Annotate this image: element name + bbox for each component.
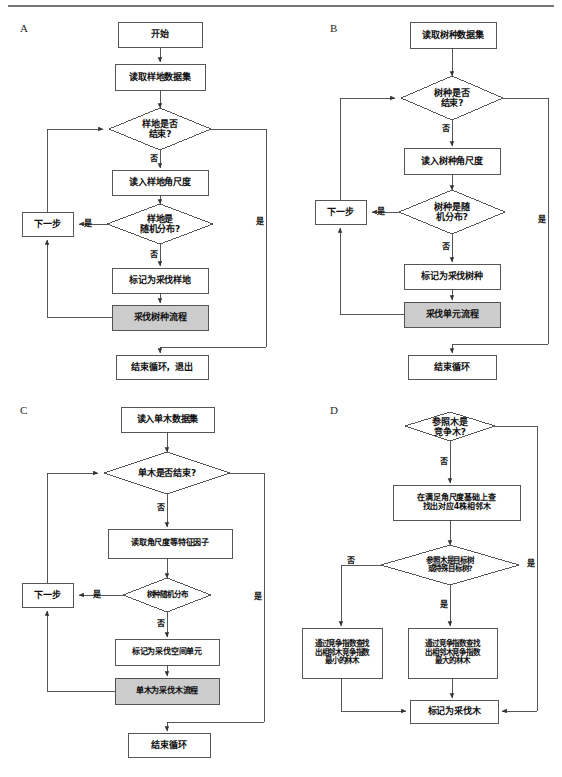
edge-label-a-no-2: 否 <box>150 248 158 259</box>
flowchart-canvas <box>0 0 562 777</box>
panel-letter-a: A <box>20 22 28 34</box>
edge-label-d-no-1: 否 <box>440 455 448 466</box>
panel-letter-b: B <box>330 22 337 34</box>
edge-label-c-no-1: 否 <box>157 501 165 512</box>
edge-label-c-no-2: 否 <box>157 617 165 628</box>
panel-letter-c: C <box>20 404 27 416</box>
edge-label-d-no-2: 否 <box>347 554 355 565</box>
edge-label-b-no-1: 否 <box>442 122 450 133</box>
figure-page: A B C D 开始 读取样地数据集 样地是否结束? 读入样地角尺度 样地是随机… <box>0 0 562 777</box>
panel-letter-d: D <box>330 404 338 416</box>
edge-label-a-yes-1: 是 <box>84 217 92 228</box>
edge-label-d-yes-2: 是 <box>440 598 448 609</box>
edge-label-b-no-2: 否 <box>442 240 450 251</box>
edge-label-b-yes-1: 是 <box>377 205 385 216</box>
edge-label-a-no-1: 否 <box>150 152 158 163</box>
edge-label-b-yes-2: 是 <box>538 213 546 224</box>
edge-label-d-yes-1: 是 <box>527 557 535 568</box>
edge-label-c-yes-2: 是 <box>254 590 262 601</box>
edge-label-c-yes-1: 是 <box>93 588 101 599</box>
edge-label-a-yes-2: 是 <box>256 215 264 226</box>
